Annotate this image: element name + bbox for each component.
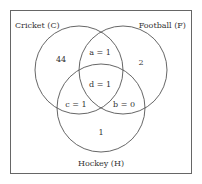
cricket-label: Cricket (C) (15, 21, 60, 30)
frame-border (11, 11, 192, 174)
region-football-only: 2 (138, 58, 143, 67)
venn-diagram: Cricket (C) Football (F) Hockey (H) 44 a… (0, 0, 202, 184)
region-football-hockey: b = 0 (113, 100, 135, 109)
region-cricket-only: 44 (56, 55, 66, 64)
region-all-three: d = 1 (89, 80, 111, 89)
region-cricket-hockey: c = 1 (65, 100, 86, 109)
football-label: Football (F) (139, 21, 186, 30)
region-cricket-football: a = 1 (89, 48, 111, 57)
region-hockey-only: 1 (98, 128, 103, 137)
hockey-label: Hockey (H) (78, 159, 124, 168)
